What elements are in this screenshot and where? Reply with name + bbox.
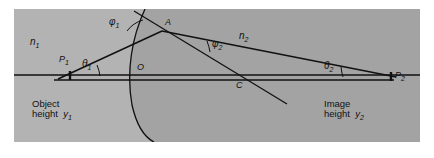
angle-label-theta1: θ1 [82, 59, 91, 71]
medium-label-n2: n2 [239, 31, 248, 43]
angle-label-phi2: φ2 [212, 39, 222, 51]
point-label-p2: P2 [395, 71, 405, 82]
angle-label-theta2: θ2 [324, 61, 333, 73]
angle-label-phi1: φ1 [109, 17, 119, 29]
diagram-frame: n1 n2 P1 O A C P2 φ1 φ2 θ1 θ2 Object hei… [14, 9, 420, 142]
figure-canvas: n1 n2 P1 O A C P2 φ1 φ2 θ1 θ2 Object hei… [0, 0, 434, 158]
object-caption-line2: height y1 [32, 109, 72, 121]
image-height-caption: Image height y2 [324, 99, 364, 121]
point-label-o: O [137, 63, 144, 72]
point-label-p1: P1 [59, 55, 69, 66]
medium-label-n1: n1 [30, 37, 39, 49]
object-height-caption: Object height y1 [32, 99, 72, 121]
point-label-a: A [165, 18, 171, 27]
ray-diagram-svg [14, 9, 420, 142]
point-label-c: C [236, 81, 243, 90]
image-caption-line2: height y2 [324, 109, 364, 121]
